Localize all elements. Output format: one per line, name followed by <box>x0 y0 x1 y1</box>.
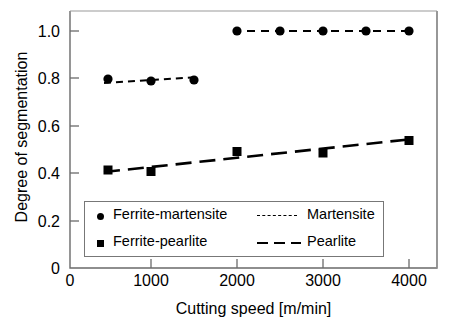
y-axis-ticks <box>70 31 79 221</box>
legend-label-pearlite: Pearlite <box>307 233 356 249</box>
chart-legend: Ferrite-martensite Martensite Ferrite-pe… <box>84 201 384 257</box>
legend-label-ferrite-pearlite: Ferrite-pearlite <box>113 233 207 249</box>
plot-canvas <box>0 0 458 331</box>
filled-square-icon <box>97 240 104 247</box>
series-ferrite-martensite-markers <box>103 26 413 85</box>
legend-label-martensite: Martensite <box>307 206 375 222</box>
legend-row-martensite: Ferrite-martensite Martensite <box>85 202 383 230</box>
legend-label-ferrite-martensite: Ferrite-martensite <box>113 206 227 222</box>
x-axis-ticks <box>151 259 409 268</box>
chart-figure: Degree of segmentation 1.0 0.8 0.6 0.4 0… <box>0 0 458 331</box>
long-dash-line-icon <box>257 241 301 245</box>
short-dash-line-icon <box>257 215 297 216</box>
legend-row-pearlite: Ferrite-pearlite Pearlite <box>85 229 383 257</box>
filled-circle-icon <box>97 213 104 220</box>
series-martensite-trendline <box>104 31 413 83</box>
